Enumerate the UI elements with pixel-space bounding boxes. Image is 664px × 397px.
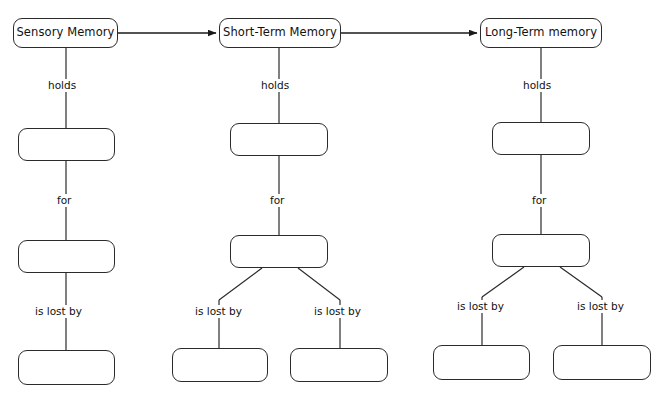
header-node-long-term[interactable]: Long-Term memory bbox=[480, 18, 602, 48]
node-label: Sensory Memory bbox=[16, 27, 114, 39]
edge-label-sensory-2: for bbox=[55, 194, 73, 207]
edge-label-sensory-1: holds bbox=[46, 79, 78, 92]
answer-box-sensory-2[interactable] bbox=[18, 240, 115, 273]
answer-box-short-term-3[interactable] bbox=[172, 348, 268, 382]
answer-box-long-term-3[interactable] bbox=[433, 345, 530, 380]
edge-layer bbox=[0, 0, 664, 397]
answer-box-short-term-2[interactable] bbox=[230, 235, 328, 268]
connector-line-diagonal-12 bbox=[560, 267, 602, 297]
edge-label-long-term-1: holds bbox=[521, 79, 553, 92]
edge-label-long-term-2: for bbox=[530, 194, 548, 207]
answer-box-long-term-1[interactable] bbox=[492, 122, 590, 155]
edge-label-short-term-1: holds bbox=[259, 79, 291, 92]
connector-line-diagonal-5 bbox=[219, 268, 262, 300]
edge-label-short-term-4: is lost by bbox=[312, 305, 363, 318]
edge-label-long-term-3: is lost by bbox=[455, 300, 506, 313]
answer-box-short-term-1[interactable] bbox=[230, 123, 328, 156]
edge-label-short-term-3: is lost by bbox=[193, 305, 244, 318]
node-label: Long-Term memory bbox=[485, 27, 597, 39]
answer-box-long-term-4[interactable] bbox=[553, 345, 651, 380]
edge-label-sensory-3: is lost by bbox=[33, 305, 84, 318]
edge-label-short-term-2: for bbox=[268, 194, 286, 207]
edge-label-long-term-4: is lost by bbox=[575, 300, 626, 313]
connector-line-diagonal-11 bbox=[482, 267, 524, 297]
header-node-sensory[interactable]: Sensory Memory bbox=[13, 18, 118, 48]
answer-box-sensory-1[interactable] bbox=[18, 128, 115, 161]
node-label: Short-Term Memory bbox=[223, 27, 337, 39]
answer-box-long-term-2[interactable] bbox=[492, 234, 590, 267]
answer-box-short-term-4[interactable] bbox=[290, 348, 388, 382]
memory-concept-map: Sensory MemoryShort-Term MemoryLong-Term… bbox=[0, 0, 664, 397]
header-node-short-term[interactable]: Short-Term Memory bbox=[219, 18, 341, 48]
connector-line-diagonal-6 bbox=[298, 268, 340, 300]
answer-box-sensory-3[interactable] bbox=[18, 350, 115, 385]
